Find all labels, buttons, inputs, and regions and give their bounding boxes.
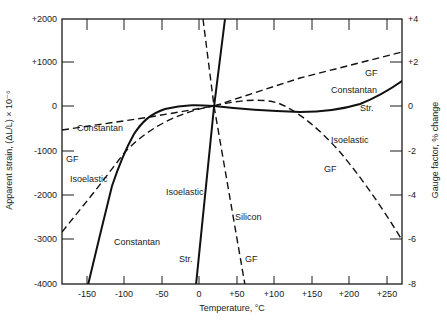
svg-text:-1000: -1000 (34, 146, 57, 156)
y-axis-title: Apparent strain, (ΔL/L) × 10⁻⁶ (4, 90, 14, 210)
svg-text:0: 0 (196, 289, 201, 299)
annot-str-right: Str. (360, 103, 374, 113)
svg-text:+2000: +2000 (32, 14, 57, 24)
svg-text:-8: -8 (408, 279, 416, 289)
svg-text:-4: -4 (408, 190, 416, 200)
svg-text:0: 0 (52, 101, 57, 111)
annot-isoelastic-right: Isoelastic (331, 135, 369, 145)
strain-gauge-chart: -150 -100 -50 0 +50 +100 +150 +200 +250 … (0, 0, 447, 323)
svg-text:+250: +250 (377, 289, 397, 299)
svg-text:-100: -100 (115, 289, 133, 299)
svg-text:+200: +200 (339, 289, 359, 299)
svg-text:-6: -6 (408, 234, 416, 244)
annot-constantan-lower: Constantan (114, 237, 160, 247)
svg-text:+150: +150 (302, 289, 322, 299)
annot-gf-left: GF (66, 154, 79, 164)
svg-text:+1000: +1000 (32, 57, 57, 67)
svg-text:0: 0 (408, 101, 413, 111)
annot-constantan-right: Constantan (331, 85, 377, 95)
svg-text:+50: +50 (229, 289, 244, 299)
x-tick-labels: -150 -100 -50 0 +50 +100 +150 +200 +250 (78, 289, 397, 299)
annot-gf-isoelastic: GF (324, 164, 337, 174)
annot-isoelastic-left: Isoelastic (70, 174, 108, 184)
y-tick-labels: +2000 +1000 0 -1000 -2000 -3000 -4000 (32, 14, 57, 289)
svg-text:+4: +4 (408, 14, 418, 24)
svg-text:-2: -2 (408, 146, 416, 156)
svg-text:-3000: -3000 (34, 234, 57, 244)
y-axis-ticks (62, 62, 74, 239)
annot-silicon: Silicon (235, 212, 262, 222)
curves (62, 19, 402, 285)
y2-tick-labels: +4 +2 0 -2 -4 -6 -8 (408, 14, 418, 289)
x-axis-title: Temperature, °C (199, 303, 265, 313)
svg-text:-50: -50 (155, 289, 168, 299)
curve-annotations: Constantan GF Isoelastic Constantan Isoe… (66, 68, 378, 264)
svg-text:+100: +100 (264, 289, 284, 299)
annot-gf-silicon: GF (245, 254, 258, 264)
svg-text:+2: +2 (408, 57, 418, 67)
svg-text:-150: -150 (78, 289, 96, 299)
annot-str-silicon: Str. (179, 254, 193, 264)
plot-frame (62, 19, 402, 284)
annot-gf-right: GF (365, 68, 378, 78)
y2-axis-title: Gauge factor, % change (430, 102, 440, 199)
svg-text:-2000: -2000 (34, 190, 57, 200)
annot-constantan-left: Constantan (77, 123, 123, 133)
svg-text:-4000: -4000 (34, 279, 57, 289)
annot-isoelastic-center: Isoelastic (166, 187, 204, 197)
silicon-strain-curve (196, 19, 225, 285)
